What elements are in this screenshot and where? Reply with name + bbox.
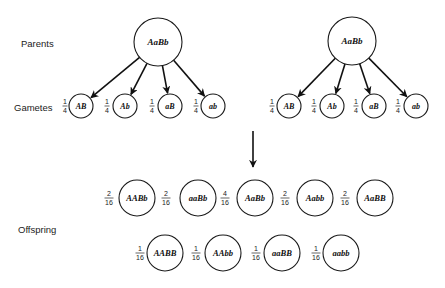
fraction-denominator: 16 [136,254,144,261]
parents-label: Parents [21,38,54,49]
gamete-arrow [369,58,407,97]
probability-fraction: 14 [63,98,68,114]
parents-group: AaBbAaBb [134,17,376,66]
genotype-label: Ab [119,102,129,111]
gamete-left-AB: AB [69,94,93,118]
probability-fraction: 14 [312,98,317,114]
probability-fraction: 216 [105,190,114,206]
offspring-AABB: AABB [147,235,183,271]
fraction-numerator: 2 [107,190,111,197]
offspring-AaBB: AaBB [357,180,393,216]
offspring-AaBb: AaBb [237,180,273,216]
probability-fraction: 14 [150,98,155,114]
gamete-left-Ab: Ab [113,94,137,118]
genotype-label: aaBb [189,193,207,203]
gamete-arrow [131,63,147,94]
offspring-AABb: AABb [119,180,155,216]
fraction-numerator: 1 [194,245,198,252]
offspring-aaBB: aaBB [264,235,300,271]
fraction-numerator: 1 [270,98,274,105]
genotype-label: AABb [125,193,147,203]
fraction-denominator: 4 [194,107,198,114]
offspring-aabb: aabb [323,235,359,271]
genotype-label: Aabb [305,193,324,203]
fraction-numerator: 1 [396,98,400,105]
gametes-label: Gametes [14,102,53,113]
genotype-label: AABB [153,248,177,258]
probability-fraction: 14 [270,98,275,114]
probability-fraction: 116 [312,245,321,261]
genotype-label: AaBb [146,37,169,47]
gamete-arrow [174,60,205,96]
genotype-label: aabb [333,248,350,258]
gamete-left-ab: ab [201,94,225,118]
fraction-numerator: 1 [194,98,198,105]
probability-fraction: 216 [341,190,350,206]
genotype-label: AB [75,102,87,111]
fraction-denominator: 4 [105,107,109,114]
gamete-arrow [298,58,335,96]
offspring-aaBb: aaBb [180,180,216,216]
gamete-arrow [360,64,370,94]
genotype-label: AaBB [363,193,386,203]
fraction-numerator: 1 [150,98,154,105]
genotype-label: aaBB [272,248,292,258]
fraction-denominator: 16 [221,199,229,206]
genotype-label: ab [209,102,217,111]
fraction-numerator: 2 [343,190,347,197]
probability-fraction: 416 [221,190,230,206]
gamete-arrow [336,64,345,94]
fraction-denominator: 16 [252,254,260,261]
fraction-denominator: 4 [354,107,358,114]
probability-fraction: 14 [396,98,401,114]
gamete-right-ab: ab [404,94,428,118]
parent-left: AaBb [134,18,182,66]
gamete-right-aB: aB [362,94,386,118]
fraction-numerator: 1 [314,245,318,252]
fraction-denominator: 16 [312,254,320,261]
probability-fraction: 14 [105,98,110,114]
fraction-denominator: 16 [192,254,200,261]
offspring-Aabb: Aabb [297,180,333,216]
fraction-numerator: 1 [138,245,142,252]
gamete-left-aB: aB [158,94,182,118]
probability-fraction: 216 [162,190,171,206]
offspring-label: Offspring [18,224,56,235]
fraction-denominator: 4 [396,107,400,114]
genotype-label: ab [412,102,420,111]
fraction-numerator: 1 [354,98,358,105]
probability-fraction: 116 [192,245,201,261]
fraction-denominator: 16 [341,199,349,206]
genotype-label: AAbb [212,248,233,258]
fraction-numerator: 1 [254,245,258,252]
probability-fraction: 216 [281,190,290,206]
fraction-numerator: 2 [164,190,168,197]
fraction-numerator: 1 [63,98,67,105]
probability-fraction: 116 [136,245,145,261]
gamete-right-Ab: Ab [320,94,344,118]
probability-fraction: 14 [194,98,199,114]
genotype-label: Ab [326,102,336,111]
fraction-denominator: 16 [281,199,289,206]
fraction-numerator: 2 [283,190,287,197]
fraction-denominator: 4 [150,107,154,114]
probability-fraction: 14 [354,98,359,114]
gamete-arrow [162,66,167,94]
genotype-label: AaBb [340,36,363,46]
fraction-numerator: 1 [312,98,316,105]
genotype-label: AaBb [244,193,265,203]
genotype-label: AB [283,102,295,111]
offspring-AAbb: AAbb [205,235,241,271]
fraction-numerator: 1 [105,98,109,105]
probability-fraction: 116 [252,245,261,261]
gamete-right-AB: AB [277,94,301,118]
parent-right: AaBb [328,17,376,65]
gametes-group: 14AB14Ab14aB14ab14AB14Ab14aB14ab [63,94,429,118]
genotype-label: aB [165,102,175,111]
fraction-denominator: 4 [270,107,274,114]
fraction-denominator: 4 [63,107,67,114]
fraction-numerator: 4 [223,190,227,197]
dihybrid-cross-diagram: Parents Gametes Offspring AaBbAaBb 14AB1… [0,0,445,288]
fraction-denominator: 4 [312,107,316,114]
genotype-label: aB [369,102,379,111]
